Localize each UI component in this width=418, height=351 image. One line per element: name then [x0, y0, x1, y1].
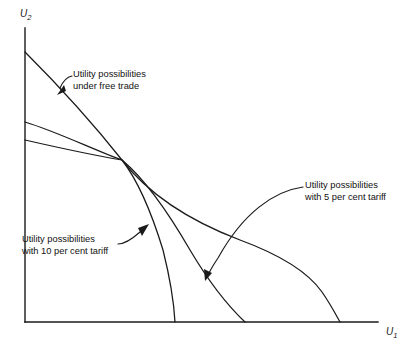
arrowhead-tariff-10 — [138, 224, 149, 236]
leader-line-tariff-10 — [118, 232, 140, 244]
leader-tariff-10 — [118, 224, 149, 244]
figure-canvas — [0, 0, 418, 351]
annotation-tariff-5: Utility possibilities with 5 per cent ta… — [305, 180, 386, 203]
annotation-free-trade-line2: under free trade — [73, 81, 146, 93]
curve-tariff-10 — [25, 140, 175, 322]
annotation-tariff-5-line2: with 5 per cent tariff — [305, 192, 386, 204]
curve-tariff-5 — [25, 122, 245, 322]
x-axis-label-subscript: 1 — [393, 331, 397, 340]
annotation-free-trade: Utility possibilities under free trade — [73, 69, 146, 92]
annotation-free-trade-line1: Utility possibilities — [73, 69, 146, 81]
annotation-tariff-10-line2: with 10 per cent tariff — [22, 246, 108, 258]
annotation-tariff-10-line1: Utility possibilities — [22, 234, 108, 246]
y-axis-label: U2 — [20, 8, 32, 22]
x-axis-label: U1 — [386, 326, 398, 340]
curve-free-trade — [25, 52, 340, 322]
annotation-tariff-5-line1: Utility possibilities — [305, 180, 386, 192]
leader-line-free-trade — [60, 76, 72, 88]
leader-tariff-5 — [204, 187, 303, 281]
y-axis-label-subscript: 2 — [27, 13, 31, 22]
leader-line-tariff-5 — [209, 187, 303, 273]
utility-possibilities-figure: U2 U1 Utility possibilities under free t… — [0, 0, 418, 351]
annotation-tariff-10: Utility possibilities with 10 per cent t… — [22, 234, 108, 257]
